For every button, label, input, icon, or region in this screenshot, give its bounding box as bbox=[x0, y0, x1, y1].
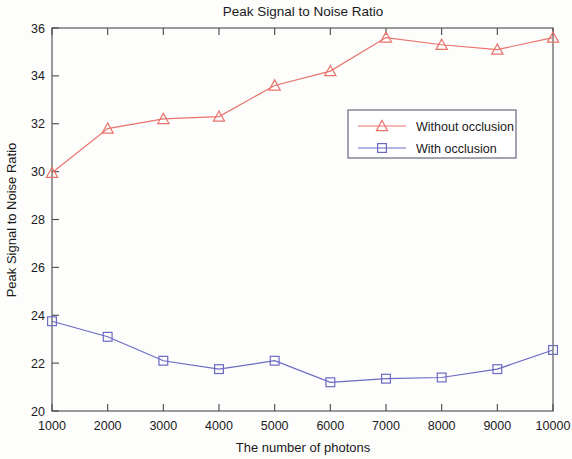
psnr-chart-figure: Peak Signal to Noise Ratio 2022242628303… bbox=[0, 0, 572, 459]
y-tick-label: 36 bbox=[31, 22, 45, 36]
plot-frame bbox=[52, 28, 553, 411]
x-tick-label: 3000 bbox=[149, 419, 177, 433]
y-tick-label: 22 bbox=[31, 357, 45, 371]
chart-legend: Without occlusionWith occlusion bbox=[348, 110, 516, 158]
data-series-group bbox=[46, 32, 558, 387]
x-tick-label: 7000 bbox=[372, 419, 400, 433]
chart-title: Peak Signal to Noise Ratio bbox=[223, 4, 384, 19]
series-line bbox=[52, 321, 553, 382]
y-tick-label: 20 bbox=[31, 405, 45, 419]
series-square bbox=[48, 317, 558, 387]
x-axis-label: The number of photons bbox=[236, 440, 371, 455]
y-tick-label: 28 bbox=[31, 213, 45, 227]
x-tick-label: 2000 bbox=[94, 419, 122, 433]
x-tick-label: 1000 bbox=[38, 419, 66, 433]
y-axis-ticks: 202224262830323436 bbox=[31, 22, 59, 419]
y-axis-label: Peak Signal to Noise Ratio bbox=[4, 143, 19, 298]
y-tick-label: 24 bbox=[31, 309, 45, 323]
y-tick-label: 26 bbox=[31, 261, 45, 275]
x-tick-label: 9000 bbox=[483, 419, 511, 433]
chart-canvas: Peak Signal to Noise Ratio 2022242628303… bbox=[0, 0, 572, 459]
y-tick-label: 30 bbox=[31, 165, 45, 179]
y-tick-label: 32 bbox=[31, 117, 45, 131]
x-tick-label: 4000 bbox=[205, 419, 233, 433]
x-tick-label: 5000 bbox=[261, 419, 289, 433]
y-tick-label: 34 bbox=[31, 69, 45, 83]
legend-label: Without occlusion bbox=[416, 120, 514, 134]
legend-label: With occlusion bbox=[416, 142, 497, 156]
x-tick-label: 10000 bbox=[536, 419, 571, 433]
x-tick-label: 8000 bbox=[428, 419, 456, 433]
x-tick-label: 6000 bbox=[316, 419, 344, 433]
